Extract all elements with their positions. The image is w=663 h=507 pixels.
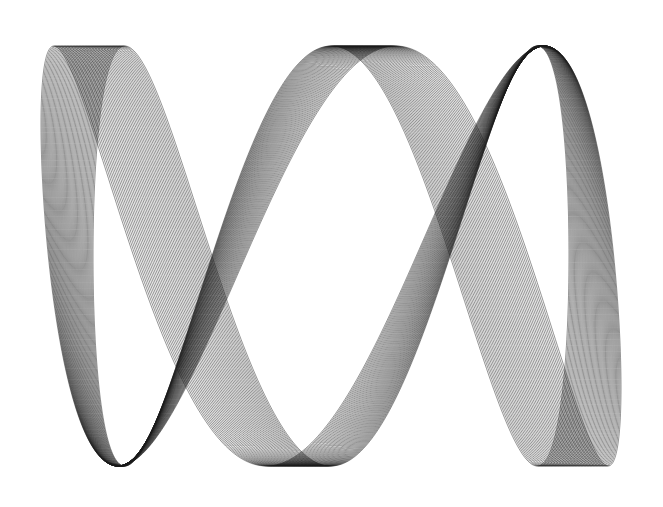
curve-line — [68, 46, 595, 466]
curve-line — [43, 46, 619, 466]
curve-line — [91, 46, 571, 466]
curve-line — [51, 46, 611, 466]
curve-line — [41, 46, 621, 466]
curve-line — [53, 46, 609, 466]
curve-line — [58, 46, 605, 466]
curve-line — [47, 46, 616, 466]
curve-line — [85, 46, 576, 466]
curve-line — [65, 46, 596, 466]
curve-line — [55, 46, 606, 466]
curve-line — [44, 46, 617, 466]
curve-line — [87, 46, 574, 466]
curve-line — [60, 46, 602, 466]
line-art-canvas — [0, 0, 663, 507]
curve-line — [63, 46, 599, 466]
curve-line — [42, 46, 620, 466]
curve-line — [81, 46, 581, 466]
curve-line — [83, 46, 579, 466]
curve-line — [61, 46, 601, 466]
curve-line — [90, 46, 573, 466]
curve-family — [41, 46, 621, 466]
curve-line — [70, 46, 592, 466]
